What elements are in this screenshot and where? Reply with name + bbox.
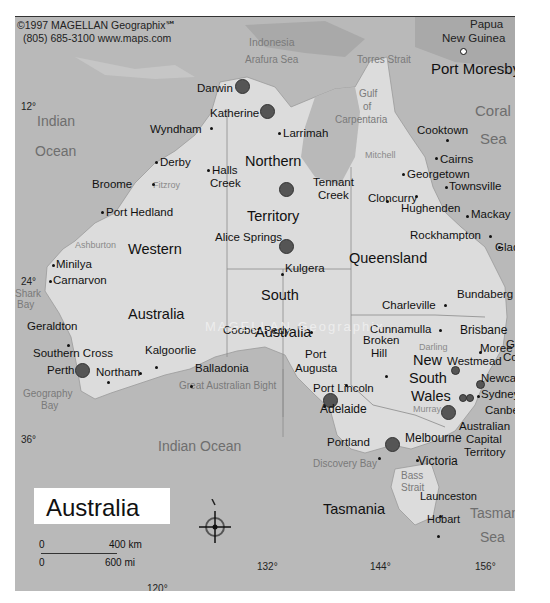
sydney-label: Sydney(2) xyxy=(481,389,515,401)
shark-bay-label-1: Shark xyxy=(15,289,41,299)
act-label-2: Capital xyxy=(466,434,502,446)
act-label-3: Territory xyxy=(464,447,506,459)
scale-mi-value: 600 mi xyxy=(105,558,135,568)
canberra-marker xyxy=(441,405,456,420)
compass-rose-icon xyxy=(199,499,231,549)
tennant-creek-label-1: Tennant xyxy=(313,177,354,189)
melbourne-label: Melbourne xyxy=(405,432,462,444)
balladonia-dot xyxy=(190,385,193,388)
shark-bay-label-2: Bay xyxy=(17,300,34,310)
townsville-dot xyxy=(445,186,448,189)
rockhampton-label: Rockhampton xyxy=(410,230,481,242)
kulgera-dot xyxy=(281,273,284,276)
hobart-dot xyxy=(437,535,440,538)
geography-bay-label-1: Geography xyxy=(23,389,72,399)
mackay-dot xyxy=(466,215,469,218)
katherine-marker xyxy=(260,104,275,119)
wyndham-label: Wyndham xyxy=(150,124,202,136)
darwin-label: Darwin xyxy=(197,83,233,95)
scale-km-zero: 0 xyxy=(39,540,45,550)
broome-label: Broome xyxy=(92,179,132,191)
port-hedland-label: Port Hedland xyxy=(106,207,173,219)
melbourne-dot xyxy=(416,459,419,462)
balladonia-label: Balladonia xyxy=(195,363,249,375)
kalgoorlie-label: Kalgoorlie xyxy=(145,345,196,357)
watermark: MAGELLAN Geographix xyxy=(205,320,385,333)
port-augusta-label-2: Augusta xyxy=(295,363,337,375)
perth-marker xyxy=(75,363,90,378)
map-title: Australia xyxy=(46,494,139,522)
newcastle-label: Newcastle xyxy=(481,373,515,385)
minilya-dot xyxy=(52,264,55,267)
murray-river-label: Murray xyxy=(413,405,441,414)
gulf-label-2: of xyxy=(363,102,371,112)
alice-springs-label: Alice Springs xyxy=(215,232,282,244)
gladstone-label: Gladstone xyxy=(495,242,515,254)
melbourne-marker xyxy=(385,437,400,452)
port-hedland-dot xyxy=(101,211,104,214)
larrimah-dot xyxy=(278,132,281,135)
kalgoorlie-dot xyxy=(155,366,158,369)
northern-territory-label-1: Northern xyxy=(245,154,301,169)
wyndham-dot xyxy=(210,127,213,130)
port-lincoln-label: Port Lincoln xyxy=(313,383,374,395)
darling-river-label: Darling xyxy=(419,343,448,352)
georgetown-dot xyxy=(402,173,405,176)
townsville-label: Townsville xyxy=(449,181,501,193)
northam-dot xyxy=(107,381,110,384)
mitchell-river-label: Mitchell xyxy=(365,151,396,160)
png-label-1: Papua xyxy=(470,19,503,31)
cooktown-label: Cooktown xyxy=(417,125,468,137)
indian-ocean-label-2: Ocean xyxy=(35,144,76,158)
copyright-phone-url: (805) 685-3100 www.maps.com xyxy=(23,33,171,45)
rockhampton-dot xyxy=(489,235,492,238)
charleville-dot xyxy=(444,304,447,307)
lon-144-label: 144° xyxy=(370,562,391,572)
lat-36-label: 36° xyxy=(21,435,36,445)
great-australian-bight-label: Great Australian Bight xyxy=(179,381,276,391)
portland-label: Portland xyxy=(327,437,370,449)
lon-132-label: 132° xyxy=(257,562,278,572)
sydney-dot xyxy=(477,395,480,398)
nsw-label-3: Wales xyxy=(411,389,451,404)
northam-label: Northam xyxy=(96,367,140,379)
victoria-label: Victoria xyxy=(418,455,458,467)
halls-creek-label-2: Creek xyxy=(210,178,241,190)
moree-label: Moree xyxy=(480,343,513,355)
gulf-label-3: Carpentaria xyxy=(335,115,387,125)
canberra-label: Canberra xyxy=(485,405,515,417)
larrimah-label: Larrimah xyxy=(283,128,328,140)
mackay-label: Mackay xyxy=(471,209,511,221)
broken-hill-label-2: Hill xyxy=(371,348,387,360)
northern-territory-label-2: Territory xyxy=(247,209,299,224)
lat-12-label: 12° xyxy=(21,102,36,112)
port-augusta-label-1: Port xyxy=(305,349,326,361)
torres-strait-label: Torres Strait xyxy=(357,55,411,65)
kulgera-label: Kulgera xyxy=(285,263,325,275)
broome-dot xyxy=(152,183,155,186)
carnarvon-label: Carnarvon xyxy=(53,275,107,287)
broken-hill-dot xyxy=(385,375,388,378)
carnarvon-dot xyxy=(49,280,52,283)
broken-hill-label-1: Broken xyxy=(363,335,399,347)
png-label-2: New Guinea xyxy=(442,33,505,45)
derby-label: Derby xyxy=(160,157,191,169)
indian-ocean-label-1: Indian xyxy=(37,114,75,128)
darwin-marker xyxy=(235,79,250,94)
map-frame: ©1997 MAGELLAN Geographix℠ (805) 685-310… xyxy=(15,16,515,591)
indian-ocean-south-label: Indian Ocean xyxy=(158,439,241,453)
hughenden-label: Hughenden xyxy=(401,203,460,215)
fitzroy-river-label: Fitzroy xyxy=(153,181,180,190)
charleville-label: Charleville xyxy=(382,300,436,312)
sydney-marker-2 xyxy=(466,394,474,402)
lon-156-label: 156° xyxy=(475,562,496,572)
queensland-label: Queensland xyxy=(349,251,427,266)
tennant-creek-label-2: Creek xyxy=(318,190,349,202)
portland-dot xyxy=(378,457,381,460)
coral-sea-label-1: Coral xyxy=(475,103,511,118)
georgetown-label: Georgetown xyxy=(407,169,470,181)
hobart-label: Hobart xyxy=(427,514,460,525)
geography-bay-label-2: Bay xyxy=(41,401,58,411)
south-australia-label-1: South xyxy=(261,288,299,303)
cunnamulla-dot xyxy=(439,329,442,332)
